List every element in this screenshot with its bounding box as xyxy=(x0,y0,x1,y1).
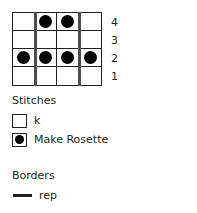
grid-cell xyxy=(57,13,79,31)
grid-cell xyxy=(35,67,57,85)
borders-legend: Borders rep xyxy=(12,170,57,207)
grid-cell xyxy=(13,13,35,31)
repeat-border-line-left xyxy=(34,12,37,86)
repeat-line-icon xyxy=(13,194,32,197)
row-number-column: 4 3 2 1 xyxy=(111,13,118,85)
grid-cell xyxy=(57,67,79,85)
legend-item-make-rosette: Make Rosette xyxy=(12,132,108,147)
stitches-legend: Stitches k Make Rosette xyxy=(12,95,108,151)
repeat-border-line-right xyxy=(78,12,81,86)
make-rosette-icon xyxy=(39,51,52,64)
grid-cell xyxy=(13,49,35,67)
row-number-label: 1 xyxy=(111,67,118,85)
legend-item-label: Make Rosette xyxy=(34,134,108,145)
grid-cell xyxy=(13,67,35,85)
make-rosette-icon xyxy=(39,15,52,28)
stitch-grid xyxy=(12,12,102,86)
make-rosette-symbol-icon xyxy=(12,133,27,147)
filled-dot-icon xyxy=(15,135,24,144)
legend-item-knit: k xyxy=(12,113,108,128)
grid-cell xyxy=(35,13,57,31)
grid-cell xyxy=(57,31,79,49)
grid-cell xyxy=(79,67,101,85)
make-rosette-icon xyxy=(84,51,97,64)
grid-cell xyxy=(13,31,35,49)
row-number-label: 3 xyxy=(111,31,118,49)
make-rosette-icon xyxy=(61,51,74,64)
grid-cell xyxy=(79,31,101,49)
make-rosette-icon xyxy=(17,51,30,64)
knit-symbol-icon xyxy=(12,114,27,128)
row-number-label: 2 xyxy=(111,49,118,67)
grid-cell xyxy=(57,49,79,67)
grid-cell xyxy=(35,49,57,67)
legend-item-label: k xyxy=(34,115,40,126)
legend-item-rep: rep xyxy=(12,188,57,203)
legend-item-label: rep xyxy=(39,190,57,201)
row-number-label: 4 xyxy=(111,13,118,31)
make-rosette-icon xyxy=(61,15,74,28)
knitting-chart: 4 3 2 1 xyxy=(12,12,118,86)
borders-legend-heading: Borders xyxy=(12,170,57,181)
stitches-legend-heading: Stitches xyxy=(12,95,108,106)
grid-cell xyxy=(79,49,101,67)
grid-cell xyxy=(35,31,57,49)
grid-cell xyxy=(79,13,101,31)
